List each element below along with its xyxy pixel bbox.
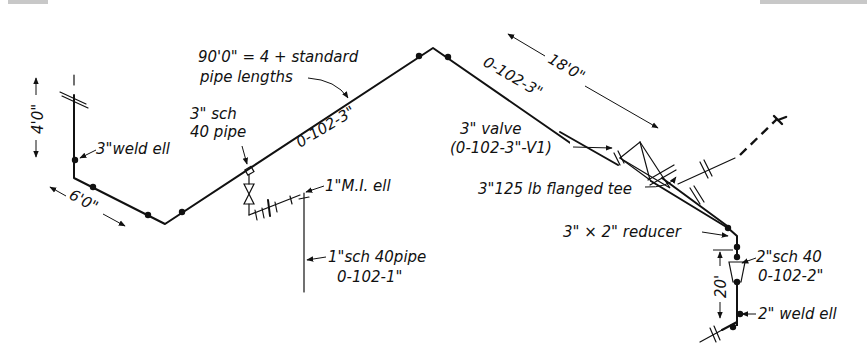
svg-text:3" sch: 3" sch xyxy=(190,105,237,123)
svg-text:2"sch 40: 2"sch 40 xyxy=(756,248,822,266)
svg-text:20': 20' xyxy=(712,275,730,298)
line-number-main-3in-b: 0-102-3" xyxy=(480,53,546,101)
svg-text:40 pipe: 40 pipe xyxy=(190,123,246,141)
callout-mi-ell-1in: 1"M.I. ell xyxy=(306,177,392,195)
svg-text:2" weld ell: 2" weld ell xyxy=(758,305,838,323)
svg-text:3" valve: 3" valve xyxy=(460,120,522,138)
svg-text:3"125 lb flanged tee: 3"125 lb flanged tee xyxy=(478,180,632,198)
svg-text:18'0": 18'0" xyxy=(545,50,588,85)
svg-text:0-102-2": 0-102-2" xyxy=(758,267,823,285)
svg-text:pipe lengths: pipe lengths xyxy=(199,68,293,86)
svg-text:1"sch 40pipe: 1"sch 40pipe xyxy=(328,248,426,266)
svg-text:3"weld ell: 3"weld ell xyxy=(96,140,171,158)
isometric-piping-diagram: 4'0" 6'0" 18'0" 20' 0-102-3" 0-102-3" 90… xyxy=(0,0,867,352)
dimension-4ft: 4'0" xyxy=(29,78,47,157)
svg-text:1"M.I. ell: 1"M.I. ell xyxy=(325,177,392,195)
svg-text:3" × 2" reducer: 3" × 2" reducer xyxy=(563,223,682,241)
callout-sch40-3in: 3" sch 40 pipe xyxy=(190,105,247,164)
line-number-main-3in: 0-102-3" xyxy=(293,102,358,151)
dimension-6ft: 6'0" xyxy=(50,186,125,226)
svg-text:(0-102-3"-V1): (0-102-3"-V1) xyxy=(450,139,552,157)
branch-1in xyxy=(244,166,309,292)
callout-total-length: 90'0" = 4 + standard pipe lengths xyxy=(198,48,359,98)
svg-text:4'0": 4'0" xyxy=(29,104,47,134)
svg-text:0-102-1": 0-102-1" xyxy=(337,268,402,286)
callout-sch40-1in: 1"sch 40pipe 0-102-1" xyxy=(307,248,426,286)
svg-text:90'0" = 4 + standard: 90'0" = 4 + standard xyxy=(198,48,359,66)
callout-weld-ell-3in: 3"weld ell xyxy=(80,140,171,158)
